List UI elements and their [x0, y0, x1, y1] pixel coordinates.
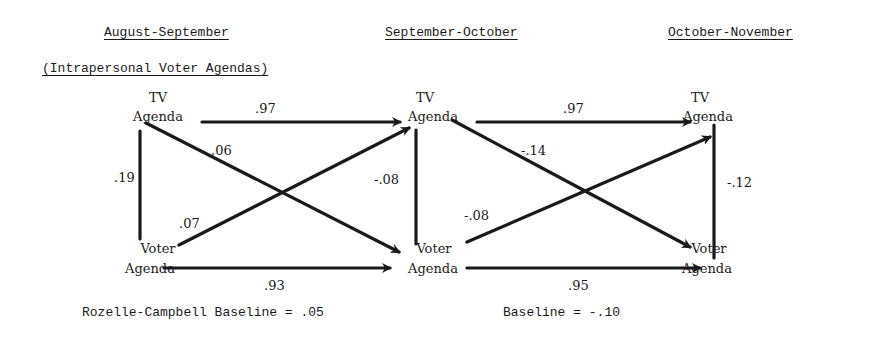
- node-voter3-line2: Agenda: [682, 262, 732, 276]
- coef-voter1-voter2: .93: [264, 279, 285, 293]
- arrow-tv2-voter3: [452, 120, 690, 247]
- coef-tv1-tv2: .97: [255, 102, 276, 116]
- baseline-second: Baseline = -.10: [503, 306, 620, 320]
- node-voter2-line1: Voter: [416, 242, 451, 256]
- coef-voter1-tv2: .07: [179, 217, 200, 231]
- header-period-3: October-November: [668, 26, 793, 40]
- node-tv2-line2: Agenda: [408, 110, 458, 124]
- header-period-1: August-September: [104, 26, 229, 40]
- coef-tv2-voter2: -.08: [374, 173, 399, 187]
- coef-voter2-voter3: .95: [568, 279, 589, 293]
- coef-voter2-tv3: -.08: [464, 209, 489, 223]
- baseline-first: Rozelle-Campbell Baseline = .05: [82, 306, 324, 320]
- node-tv1-line1: TV: [149, 91, 167, 105]
- coef-tv2-tv3: .97: [563, 102, 584, 116]
- node-voter3-line1: Voter: [691, 242, 726, 256]
- coef-tv1-voter1: .19: [114, 171, 135, 185]
- coef-tv2-voter3: -.14: [521, 144, 546, 158]
- node-voter2-line2: Agenda: [408, 262, 458, 276]
- arrow-tv1-voter2: [146, 123, 399, 252]
- node-tv1-line2: Agenda: [133, 110, 183, 124]
- arrow-voter2-tv3: [467, 137, 710, 242]
- subtitle: (Intrapersonal Voter Agendas): [42, 62, 268, 76]
- node-voter1-line2: Agenda: [125, 262, 175, 276]
- node-tv2-line1: TV: [416, 91, 434, 105]
- coef-tv3-voter3: -.12: [727, 176, 752, 190]
- node-tv3-line1: TV: [691, 91, 709, 105]
- coef-tv1-voter2: .06: [211, 144, 232, 158]
- node-tv3-line2: Agenda: [683, 110, 733, 124]
- header-period-2: September-October: [385, 26, 518, 40]
- node-voter1-line1: Voter: [140, 242, 175, 256]
